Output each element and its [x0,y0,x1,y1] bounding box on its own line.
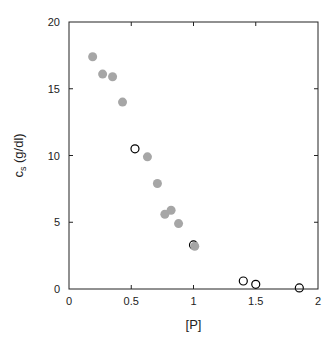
y-tick-label: 5 [54,216,60,228]
x-tick-label: 0 [66,295,72,307]
data-point-open [131,145,139,153]
x-tick-label: 1.5 [248,295,263,307]
data-point-filled [118,98,127,107]
y-tick-label: 15 [48,83,60,95]
data-point-filled [108,72,117,81]
y-axis-label: cs (g/dl) [11,133,28,177]
data-point-filled [143,152,152,161]
data-points [88,52,303,292]
tick-labels: 00.511.5205101520 [48,16,321,307]
data-point-open [252,280,260,288]
data-point-filled [174,219,183,228]
y-tick-label: 20 [48,16,60,28]
scatter-chart: 00.511.5205101520 [P] cs (g/dl) [0,0,334,349]
data-point-filled [153,179,162,188]
data-point-filled [88,52,97,61]
y-tick-label: 0 [54,283,60,295]
data-point-open [239,277,247,285]
y-tick-label: 10 [48,150,60,162]
x-tick-label: 1 [190,295,196,307]
x-tick-label: 0.5 [124,295,139,307]
x-axis-label: [P] [186,317,202,332]
data-point-filled [190,242,199,251]
data-point-filled [98,70,107,79]
x-tick-label: 2 [315,295,321,307]
data-point-open [295,284,303,292]
data-point-filled [167,206,176,215]
